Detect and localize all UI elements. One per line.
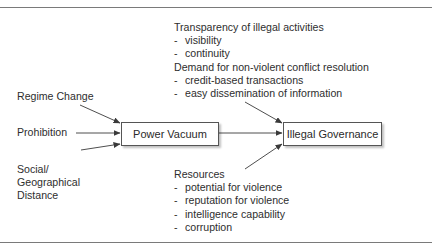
dash: - bbox=[174, 47, 185, 60]
node-illegal-governance: Illegal Governance bbox=[283, 122, 382, 146]
item-credit-based: credit-based transactions bbox=[185, 74, 303, 86]
label-social-geographical-distance: Social/ Geographical Distance bbox=[17, 163, 80, 203]
bullet-item: -continuity bbox=[174, 47, 369, 60]
bullet-item: -credit-based transactions bbox=[174, 74, 369, 87]
arrow-resources bbox=[245, 144, 282, 169]
resources-block: Resources -potential for violence -reput… bbox=[174, 168, 289, 234]
item-visibility: visibility bbox=[185, 34, 222, 46]
social-line-3: Distance bbox=[17, 189, 80, 202]
heading-resources: Resources bbox=[174, 168, 289, 181]
arrow-regime-change bbox=[80, 105, 120, 123]
dash: - bbox=[174, 87, 185, 100]
dash: - bbox=[174, 181, 185, 194]
bullet-item: -potential for violence bbox=[174, 181, 289, 194]
bullet-item: -intelligence capability bbox=[174, 208, 289, 221]
item-continuity: continuity bbox=[185, 47, 230, 59]
node-power-vacuum: Power Vacuum bbox=[121, 122, 219, 146]
bullet-item: -easy dissemination of information bbox=[174, 87, 369, 100]
heading-transparency: Transparency of illegal activities bbox=[174, 21, 369, 34]
social-line-1: Social/ bbox=[17, 163, 80, 176]
dash: - bbox=[174, 194, 185, 207]
item-potential-violence: potential for violence bbox=[185, 181, 282, 193]
arrow-transparency-demand bbox=[245, 102, 282, 123]
dash: - bbox=[174, 74, 185, 87]
dash: - bbox=[174, 34, 185, 47]
dash: - bbox=[174, 221, 185, 234]
heading-demand: Demand for non-violent conflict resoluti… bbox=[174, 61, 369, 74]
label-prohibition: Prohibition bbox=[17, 126, 67, 139]
item-reputation-violence: reputation for violence bbox=[185, 194, 289, 206]
item-intelligence: intelligence capability bbox=[185, 208, 285, 220]
item-corruption: corruption bbox=[185, 221, 232, 233]
item-dissemination: easy dissemination of information bbox=[185, 87, 342, 99]
social-line-2: Geographical bbox=[17, 176, 80, 189]
dash: - bbox=[174, 208, 185, 221]
bullet-item: -visibility bbox=[174, 34, 369, 47]
arrow-social-distance bbox=[81, 144, 120, 150]
bullet-item: -reputation for violence bbox=[174, 194, 289, 207]
label-regime-change: Regime Change bbox=[17, 90, 94, 103]
top-factors-block: Transparency of illegal activities -visi… bbox=[174, 21, 369, 100]
bullet-item: -corruption bbox=[174, 221, 289, 234]
